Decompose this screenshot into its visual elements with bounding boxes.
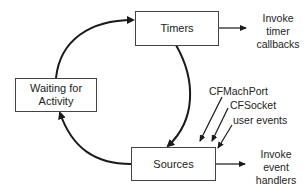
label-cfsocket: CFSocket: [230, 99, 276, 112]
edge-waiting-to-timers: [56, 20, 133, 78]
node-waiting-label: Waiting for Activity: [22, 82, 90, 108]
label-line: Invoke: [250, 148, 302, 161]
label-invoke-event-handlers: Invoke event handlers: [250, 148, 302, 187]
node-timers-label: Timers: [160, 22, 193, 35]
edge-user-events-input: [218, 125, 232, 148]
label-line: callbacks: [250, 38, 306, 51]
label-line: Invoke: [250, 12, 306, 25]
label-cfmachport: CFMachPort: [209, 85, 268, 98]
edge-cfmachport-input: [200, 97, 222, 141]
label-line: timer: [250, 25, 306, 38]
node-timers: Timers: [135, 11, 219, 46]
label-line: event: [250, 161, 302, 174]
label-invoke-timer-callbacks: Invoke timer callbacks: [250, 12, 306, 51]
edge-sources-to-waiting: [60, 113, 131, 164]
node-sources: Sources: [131, 147, 216, 181]
node-waiting-for-activity: Waiting for Activity: [15, 78, 97, 112]
label-user-events: user events: [233, 114, 287, 127]
label-line: handlers: [250, 174, 302, 187]
node-sources-label: Sources: [153, 158, 193, 171]
edge-timers-to-sources: [168, 45, 190, 146]
